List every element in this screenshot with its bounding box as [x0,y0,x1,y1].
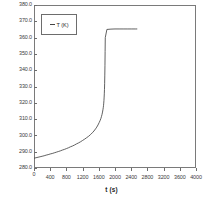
y-axis-tick-mark [34,152,37,153]
temperature-time-chart: 280.0290.0300.0310.0320.0330.0340.0350.0… [0,0,217,202]
x-axis-tick-label: 4000 [184,174,208,180]
x-axis-tick-mark [99,168,100,171]
x-axis-tick-mark [164,168,165,171]
y-axis-tick-label: 330.0 [0,84,32,89]
x-axis-title: t (s) [0,186,217,193]
x-axis-tick-mark [50,168,51,171]
y-axis-tick-label: 290.0 [0,149,32,154]
y-axis-tick-label: 340.0 [0,67,32,72]
y-axis-tick-mark [34,135,37,136]
x-axis-tick-mark [196,168,197,171]
y-axis-tick-mark [34,70,37,71]
y-axis-tick-label: 280.0 [0,165,32,170]
y-axis-tick-mark [34,103,37,104]
y-axis-tick-mark [34,21,37,22]
x-axis-tick-mark [131,168,132,171]
y-axis-tick-mark [34,87,37,88]
x-axis-tick-mark [83,168,84,171]
y-axis-tick-mark [34,38,37,39]
y-axis-tick-label: 310.0 [0,116,32,121]
y-axis-tick-label: 350.0 [0,51,32,56]
y-axis-tick-label: 360.0 [0,35,32,40]
x-axis-tick-mark [147,168,148,171]
y-axis-tick-label: 300.0 [0,133,32,138]
y-axis-tick-label: 380.0 [0,2,32,7]
y-axis-tick-mark [34,5,37,6]
legend-line-marker-icon [50,24,55,25]
x-axis-tick-mark [115,168,116,171]
x-axis-tick-mark [66,168,67,171]
x-axis-tick-mark [180,168,181,171]
x-axis-title-text: t (s) [105,186,118,193]
y-axis-tick-mark [34,54,37,55]
legend-label-T: T (K) [57,22,69,28]
y-axis-tick-label: 320.0 [0,100,32,105]
legend: T (K) [41,14,77,35]
y-axis-tick-label: 370.0 [0,18,32,23]
series-line-T [34,29,137,158]
y-axis-tick-mark [34,119,37,120]
